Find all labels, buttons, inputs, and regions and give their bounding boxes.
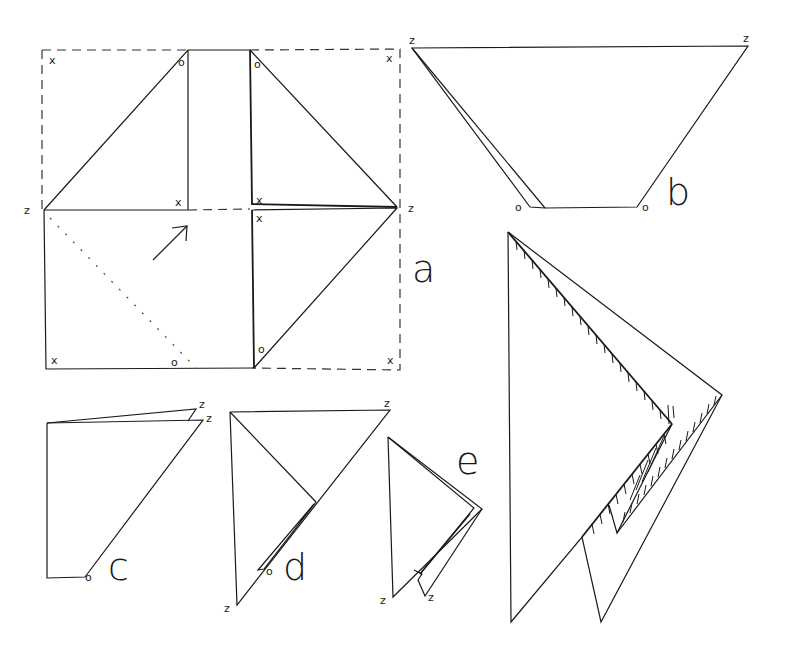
small-triangle-flap xyxy=(414,509,482,596)
panel-label-d: d xyxy=(283,545,307,589)
trapezoid-outline xyxy=(412,46,748,208)
mark-x-topleft: x xyxy=(49,54,56,67)
mark-z-right: z xyxy=(408,202,414,215)
panel-label-a: a xyxy=(412,247,435,291)
fold-arrow-icon xyxy=(153,226,187,260)
final-inner-edge xyxy=(617,395,722,533)
mark-z-c1: z xyxy=(199,398,205,411)
mark-z-b-right: z xyxy=(743,32,749,45)
final-model xyxy=(508,232,722,622)
top-left-flap xyxy=(44,50,250,210)
center-dashed-line xyxy=(188,209,250,210)
mark-o-c: o xyxy=(85,571,92,584)
mark-o-b-right: o xyxy=(642,201,649,214)
origami-diagram: x o o x z x x x z x o o x a z z o o b z … xyxy=(0,0,791,655)
right-bottom-flap-edge xyxy=(252,210,254,368)
right-bottom-flap xyxy=(252,208,397,368)
mark-o-top1: o xyxy=(178,56,185,69)
mark-z-c2: z xyxy=(206,412,212,425)
mark-z-d-top: z xyxy=(384,397,390,410)
mark-z-e1: z xyxy=(380,594,386,607)
right-top-diagonal xyxy=(250,50,397,207)
panel-label-e: e xyxy=(456,439,479,483)
mark-o-top2: o xyxy=(254,58,261,71)
mark-z-b-left: z xyxy=(409,34,415,47)
panel-label-b: b xyxy=(666,170,690,214)
bottom-left-square xyxy=(44,210,254,369)
mark-x-center2: x xyxy=(256,194,263,207)
panel-d: z z o d xyxy=(224,397,390,615)
mark-x-topright: x xyxy=(386,52,393,65)
panel-b: z z o o b xyxy=(409,32,749,214)
triangle-outline xyxy=(230,410,390,605)
hatching-inner xyxy=(623,396,716,522)
mark-x-center1: x xyxy=(175,196,182,209)
panel-e: z z e xyxy=(380,437,482,607)
mark-x-bottomleft: x xyxy=(51,354,58,367)
final-outline xyxy=(508,232,722,622)
triangle-inner-diagonal xyxy=(230,412,316,502)
mark-o-d: o xyxy=(266,565,273,578)
mark-z-left: z xyxy=(24,204,30,217)
panel-c: z z o c xyxy=(47,398,212,589)
mark-o-b-left: o xyxy=(515,201,522,214)
mark-x-center3: x xyxy=(256,212,263,225)
panel-a: x o o x z x x x z x o o x a xyxy=(24,49,435,370)
mark-o-right: o xyxy=(258,343,265,356)
mark-z-d-bottom: z xyxy=(224,602,230,615)
trapezoid-inner-edge xyxy=(412,48,545,208)
mark-z-e2: z xyxy=(428,591,434,604)
mark-o-bottom: o xyxy=(171,356,178,369)
final-upper-fold xyxy=(508,232,672,424)
dotted-fold-line xyxy=(50,218,196,368)
panel-label-c: c xyxy=(108,545,129,589)
mark-x-bottomright: x xyxy=(387,354,394,367)
